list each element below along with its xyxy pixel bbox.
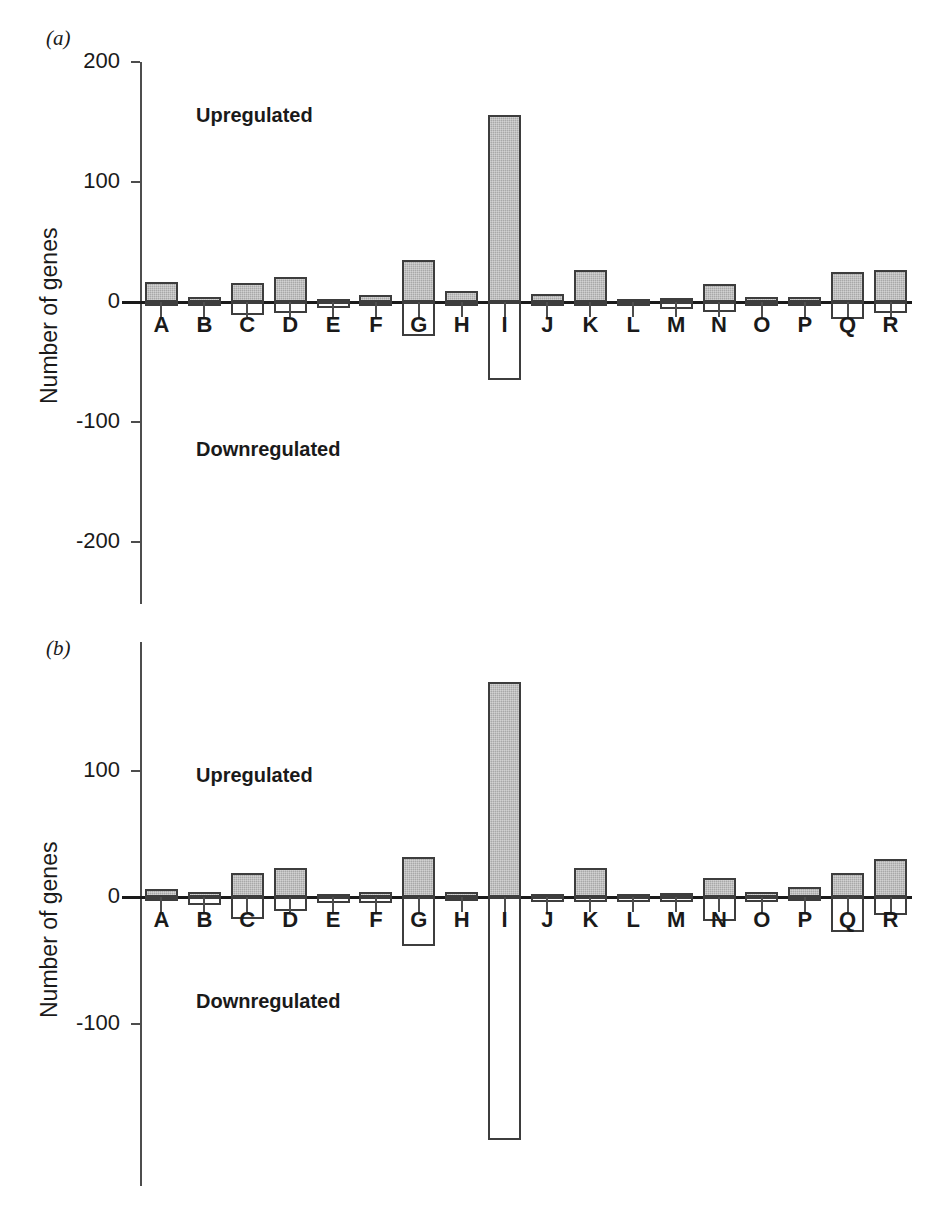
- category-label-e: E: [311, 907, 355, 933]
- category-label-d: D: [268, 312, 312, 338]
- bar-downregulated: [488, 897, 521, 1140]
- category-label-r: R: [869, 907, 913, 933]
- y-axis-tick-label: 100: [30, 168, 120, 194]
- category-label-b: B: [182, 907, 226, 933]
- category-label-g: G: [397, 312, 441, 338]
- category-label-c: C: [225, 907, 269, 933]
- category-label-h: H: [440, 907, 484, 933]
- figure-root: (a) Number of genes 2001000-100-200ABCDE…: [0, 0, 939, 1212]
- category-label-j: J: [525, 907, 569, 933]
- bar-upregulated: [574, 270, 607, 302]
- bar-upregulated: [145, 889, 178, 897]
- y-axis-tick-label: 0: [30, 883, 120, 909]
- category-label-k: K: [568, 907, 612, 933]
- category-label-f: F: [354, 312, 398, 338]
- y-axis-tick: [131, 421, 140, 423]
- y-axis-tick-label: -200: [30, 528, 120, 554]
- category-label-n: N: [697, 907, 741, 933]
- bar-upregulated: [274, 277, 307, 302]
- category-label-j: J: [525, 312, 569, 338]
- bar-upregulated: [788, 887, 821, 897]
- y-axis-tick: [131, 1023, 140, 1025]
- category-label-i: I: [483, 312, 527, 338]
- y-axis-tick-label: 0: [30, 288, 120, 314]
- bar-upregulated: [874, 859, 907, 897]
- bar-upregulated: [574, 868, 607, 897]
- category-label-o: O: [740, 312, 784, 338]
- panel-b-y-axis-title: Number of genes: [36, 842, 63, 1018]
- category-label-p: P: [783, 907, 827, 933]
- y-axis-tick-label: 200: [30, 48, 120, 74]
- bar-upregulated: [531, 294, 564, 302]
- category-label-i: I: [483, 907, 527, 933]
- bar-upregulated: [145, 282, 178, 302]
- y-axis-tick: [131, 61, 140, 63]
- bar-upregulated: [703, 284, 736, 302]
- y-axis-tick-label: -100: [30, 408, 120, 434]
- panel-b-letter: (b): [46, 636, 71, 661]
- panel-a-y-axis-title: Number of genes: [36, 228, 63, 404]
- y-axis-tick: [131, 770, 140, 772]
- category-label-l: L: [611, 312, 655, 338]
- category-label-d: D: [268, 907, 312, 933]
- upregulated-annotation: Upregulated: [196, 104, 313, 127]
- downregulated-annotation: Downregulated: [196, 990, 340, 1013]
- bar-upregulated: [488, 115, 521, 302]
- y-axis-tick-label: 100: [30, 757, 120, 783]
- bar-upregulated: [231, 283, 264, 302]
- category-label-o: O: [740, 907, 784, 933]
- bar-upregulated: [831, 272, 864, 302]
- category-label-e: E: [311, 312, 355, 338]
- category-label-k: K: [568, 312, 612, 338]
- category-label-f: F: [354, 907, 398, 933]
- upregulated-annotation: Upregulated: [196, 764, 313, 787]
- bar-upregulated: [874, 270, 907, 302]
- category-label-a: A: [139, 907, 183, 933]
- category-label-h: H: [440, 312, 484, 338]
- category-label-g: G: [397, 907, 441, 933]
- category-label-b: B: [182, 312, 226, 338]
- bar-upregulated: [445, 291, 478, 302]
- y-axis-tick-label: -100: [30, 1010, 120, 1036]
- category-label-p: P: [783, 312, 827, 338]
- panel-b: (b) Number of genes 1000-100ABCDEFGHIJKL…: [0, 620, 939, 1212]
- bar-upregulated: [402, 260, 435, 302]
- category-label-q: Q: [826, 312, 870, 338]
- y-axis-tick: [131, 181, 140, 183]
- bar-upregulated: [402, 857, 435, 897]
- category-label-c: C: [225, 312, 269, 338]
- bar-upregulated: [488, 682, 521, 897]
- category-label-a: A: [139, 312, 183, 338]
- category-label-n: N: [697, 312, 741, 338]
- category-label-q: Q: [826, 907, 870, 933]
- bar-upregulated: [274, 868, 307, 897]
- bar-upregulated: [359, 295, 392, 302]
- bar-upregulated: [231, 873, 264, 897]
- category-label-r: R: [869, 312, 913, 338]
- bar-upregulated: [703, 878, 736, 897]
- category-label-m: M: [654, 907, 698, 933]
- category-label-l: L: [611, 907, 655, 933]
- panel-a: (a) Number of genes 2001000-100-200ABCDE…: [0, 0, 939, 620]
- downregulated-annotation: Downregulated: [196, 438, 340, 461]
- bar-upregulated: [831, 873, 864, 897]
- y-axis-tick: [131, 541, 140, 543]
- category-label-m: M: [654, 312, 698, 338]
